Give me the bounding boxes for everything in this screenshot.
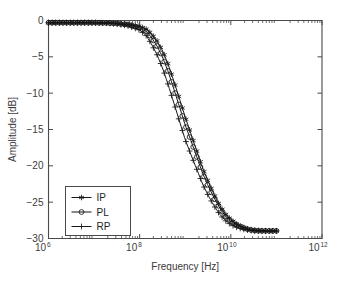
y-tick-label: −5	[32, 51, 44, 62]
amplitude-vs-frequency-chart: 106108101010120−5−10−15−20−25−30 IPPLRP …	[0, 0, 350, 287]
x-tick-exponent: 12	[321, 241, 329, 248]
x-tick-exponent: 8	[138, 241, 142, 248]
figure-background	[0, 0, 350, 287]
x-tick-mantissa: 10	[308, 242, 320, 253]
x-tick-exponent: 6	[47, 241, 51, 248]
x-tick-mantissa: 10	[126, 242, 138, 253]
figure-container: 106108101010120−5−10−15−20−25−30 IPPLRP …	[0, 0, 350, 287]
legend-group[interactable]: IPPLRP	[66, 187, 131, 236]
legend-label: IP	[97, 192, 107, 203]
x-axis-label: Frequency [Hz]	[151, 261, 219, 272]
x-tick-exponent: 10	[229, 241, 237, 248]
x-tick-mantissa: 10	[217, 242, 229, 253]
y-tick-label: −30	[27, 233, 44, 244]
y-tick-label: −25	[27, 197, 44, 208]
legend-label: RP	[97, 221, 111, 232]
y-axis-label: Amplitude [dB]	[7, 97, 18, 162]
y-tick-label: −20	[27, 160, 44, 171]
y-tick-label: −10	[27, 88, 44, 99]
legend-label: PL	[97, 207, 110, 218]
y-tick-label: 0	[38, 15, 44, 26]
y-tick-label: −15	[27, 124, 44, 135]
